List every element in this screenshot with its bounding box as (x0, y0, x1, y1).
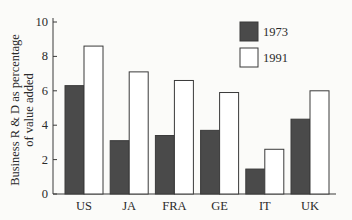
legend-swatch-1991 (240, 48, 258, 67)
bar-it-1991 (265, 149, 284, 194)
bar-us-1991 (84, 46, 103, 194)
legend: 19731991 (240, 22, 288, 67)
bar-fra-1973 (155, 136, 174, 194)
bar-ge-1991 (220, 93, 239, 194)
bar-ge-1973 (201, 130, 220, 194)
x-tick-label-uk: UK (301, 199, 319, 213)
bar-uk-1991 (310, 91, 329, 194)
bar-it-1973 (246, 169, 265, 194)
y-tick-label: 0 (42, 187, 48, 201)
legend-label-1973: 1973 (263, 25, 288, 39)
y-tick-label: 6 (42, 84, 48, 98)
bars (65, 46, 329, 194)
x-tick-label-fra: FRA (162, 199, 186, 213)
y-tick-label: 10 (36, 15, 49, 29)
bar-ja-1973 (110, 141, 129, 194)
legend-label-1991: 1991 (263, 51, 288, 65)
bar-fra-1991 (174, 80, 193, 194)
y-tick-label: 8 (42, 49, 48, 63)
bar-chart: 0246810 USJAFRAGEITUK 19731991 (0, 0, 352, 220)
x-tick-label-ge: GE (211, 199, 228, 213)
x-tick-label-ja: JA (122, 199, 136, 213)
x-tick-label-it: IT (259, 199, 271, 213)
bar-ja-1991 (129, 72, 148, 194)
y-tick-label: 4 (42, 118, 49, 132)
bar-uk-1973 (291, 119, 310, 194)
legend-swatch-1973 (240, 22, 258, 41)
x-axis-tick-labels: USJAFRAGEITUK (76, 199, 319, 213)
x-tick-label-us: US (76, 199, 92, 213)
bar-us-1973 (65, 86, 84, 194)
y-tick-label: 2 (42, 153, 48, 167)
